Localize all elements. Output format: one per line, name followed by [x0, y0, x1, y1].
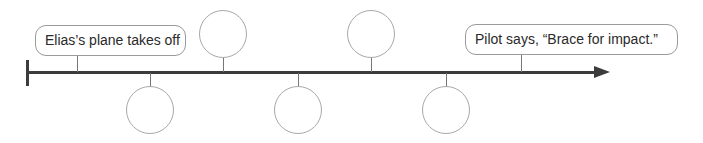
blank-event-circle-4[interactable]	[347, 10, 395, 58]
blank-event-circle-3[interactable]	[274, 86, 322, 134]
arrow-right-icon	[594, 66, 610, 78]
event-label-start: Elias’s plane takes off	[45, 32, 180, 48]
connector-blank-5	[446, 73, 447, 87]
connector-start	[77, 55, 78, 72]
blank-event-circle-2[interactable]	[199, 10, 247, 58]
event-label-end: Pilot says, “Brace for impact.”	[475, 31, 658, 47]
connector-blank-3	[298, 73, 299, 87]
event-box-start: Elias’s plane takes off	[35, 25, 186, 56]
event-box-end: Pilot says, “Brace for impact.”	[465, 24, 678, 55]
connector-end	[521, 54, 522, 72]
timeline-diagram: Elias’s plane takes off Pilot says, “Bra…	[0, 0, 703, 143]
connector-blank-1	[150, 73, 151, 87]
blank-event-circle-1[interactable]	[126, 86, 174, 134]
timeline-axis-line	[27, 71, 597, 74]
connector-blank-4	[371, 57, 372, 72]
connector-blank-2	[223, 57, 224, 72]
blank-event-circle-5[interactable]	[422, 86, 470, 134]
